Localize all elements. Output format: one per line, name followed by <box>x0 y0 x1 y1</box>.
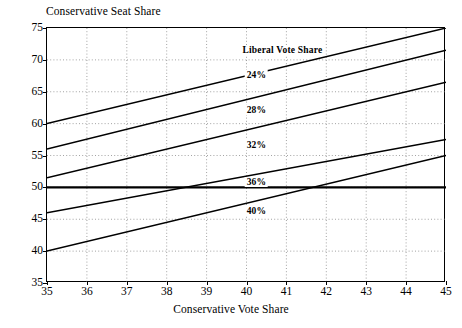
x-tickmark-45 <box>446 281 447 285</box>
x-tickmark-44 <box>406 281 407 285</box>
y-tickmark-60 <box>43 124 47 125</box>
x-tick-45: 45 <box>440 286 452 298</box>
y-tickmark-70 <box>43 60 47 61</box>
x-tickmark-42 <box>326 281 327 285</box>
x-tick-39: 39 <box>201 286 213 298</box>
y-tickmark-65 <box>43 92 47 93</box>
y-tick-50: 50 <box>32 182 44 194</box>
series-label-24%: 24% <box>245 70 268 80</box>
x-tickmark-35 <box>47 281 48 285</box>
x-axis-title: Conservative Vote Share <box>0 303 462 315</box>
x-tickmark-40 <box>247 281 248 285</box>
series-label-40%: 40% <box>245 206 268 216</box>
series-label-32%: 32% <box>245 140 268 150</box>
horizontal-gridlines <box>47 60 446 251</box>
y-tickmark-55 <box>43 156 47 157</box>
x-tickmark-43 <box>366 281 367 285</box>
x-tick-38: 38 <box>161 286 173 298</box>
y-tick-70: 70 <box>32 54 44 66</box>
x-tick-42: 42 <box>321 286 333 298</box>
y-tickmark-45 <box>43 219 47 220</box>
series-label-28%: 28% <box>245 105 268 115</box>
x-tickmark-36 <box>87 281 88 285</box>
legend-title: Liberal Vote Share <box>240 45 324 55</box>
plot-svg <box>47 28 446 283</box>
y-tickmark-40 <box>43 251 47 252</box>
y-tick-45: 45 <box>32 214 44 226</box>
x-tick-44: 44 <box>400 286 412 298</box>
x-tickmark-38 <box>167 281 168 285</box>
series-label-36%: 36% <box>245 177 268 187</box>
x-tick-37: 37 <box>121 286 133 298</box>
y-axis-title: Conservative Seat Share <box>46 5 161 17</box>
x-tick-35: 35 <box>41 286 53 298</box>
x-tick-41: 41 <box>281 286 293 298</box>
y-tickmark-75 <box>43 28 47 29</box>
y-tick-55: 55 <box>32 150 44 162</box>
x-tickmark-41 <box>286 281 287 285</box>
y-tick-75: 75 <box>32 22 44 34</box>
x-tickmark-39 <box>207 281 208 285</box>
series-line-32% <box>47 82 446 178</box>
x-tickmark-37 <box>127 281 128 285</box>
plot-area: 354045505560657075 353637383940414243444… <box>46 27 445 282</box>
y-tick-65: 65 <box>32 86 44 98</box>
x-tick-43: 43 <box>360 286 372 298</box>
y-tickmark-50 <box>43 187 47 188</box>
x-tick-36: 36 <box>81 286 93 298</box>
x-tick-40: 40 <box>241 286 253 298</box>
chart-container: Conservative Seat Share 3540455055606570… <box>0 0 462 328</box>
y-tick-60: 60 <box>32 118 44 130</box>
y-tick-40: 40 <box>32 245 44 257</box>
